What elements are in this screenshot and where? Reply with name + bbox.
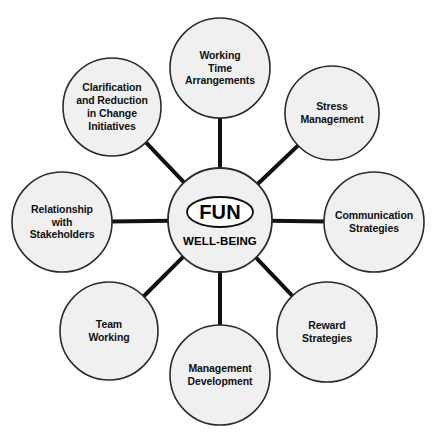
connector-team-working xyxy=(142,255,184,297)
node-circle-working-time-arrangements[interactable] xyxy=(170,18,270,118)
connector-relationship-with-stakeholders xyxy=(110,221,170,222)
node-circle-team-working[interactable] xyxy=(60,282,158,380)
node-circle-stress-management[interactable] xyxy=(285,66,379,160)
node-circle-reward-strategies[interactable] xyxy=(277,282,377,382)
diagram-canvas xyxy=(0,0,434,441)
node-circle-communication-strategies[interactable] xyxy=(324,172,424,272)
connector-reward-strategies xyxy=(255,256,294,297)
hub-title-ellipse xyxy=(187,197,253,227)
connector-stress-management xyxy=(256,144,299,185)
connector-clarification-and-reduction-in-change-initiatives xyxy=(144,141,185,184)
node-circle-relationship-with-stakeholders[interactable] xyxy=(12,172,112,272)
hub-circle-group xyxy=(168,168,272,272)
node-circle-clarification-and-reduction-in-change-initiatives[interactable] xyxy=(63,58,161,156)
node-circle-management-development[interactable] xyxy=(170,325,270,425)
connector-communication-strategies xyxy=(270,221,326,222)
wellbeing-hub-spoke-diagram: Working Time ArrangementsStress Manageme… xyxy=(0,0,434,441)
